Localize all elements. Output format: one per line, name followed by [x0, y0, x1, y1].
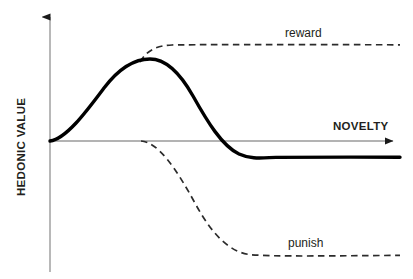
x-axis-title: NOVELTY — [333, 120, 389, 132]
y-axis-title-text: HEDONIC VALUE — [15, 100, 27, 196]
reward-curve-label: reward — [285, 26, 322, 40]
y-axis-title: HEDONIC VALUE — [0, 141, 69, 155]
reward-curve — [140, 45, 400, 62]
hedonic-value-novelty-chart: HEDONIC VALUE NOVELTY reward punish — [0, 0, 413, 279]
hedonic-value-curve — [50, 59, 400, 158]
punish-curve-label: punish — [288, 236, 323, 250]
chart-canvas — [0, 0, 413, 279]
